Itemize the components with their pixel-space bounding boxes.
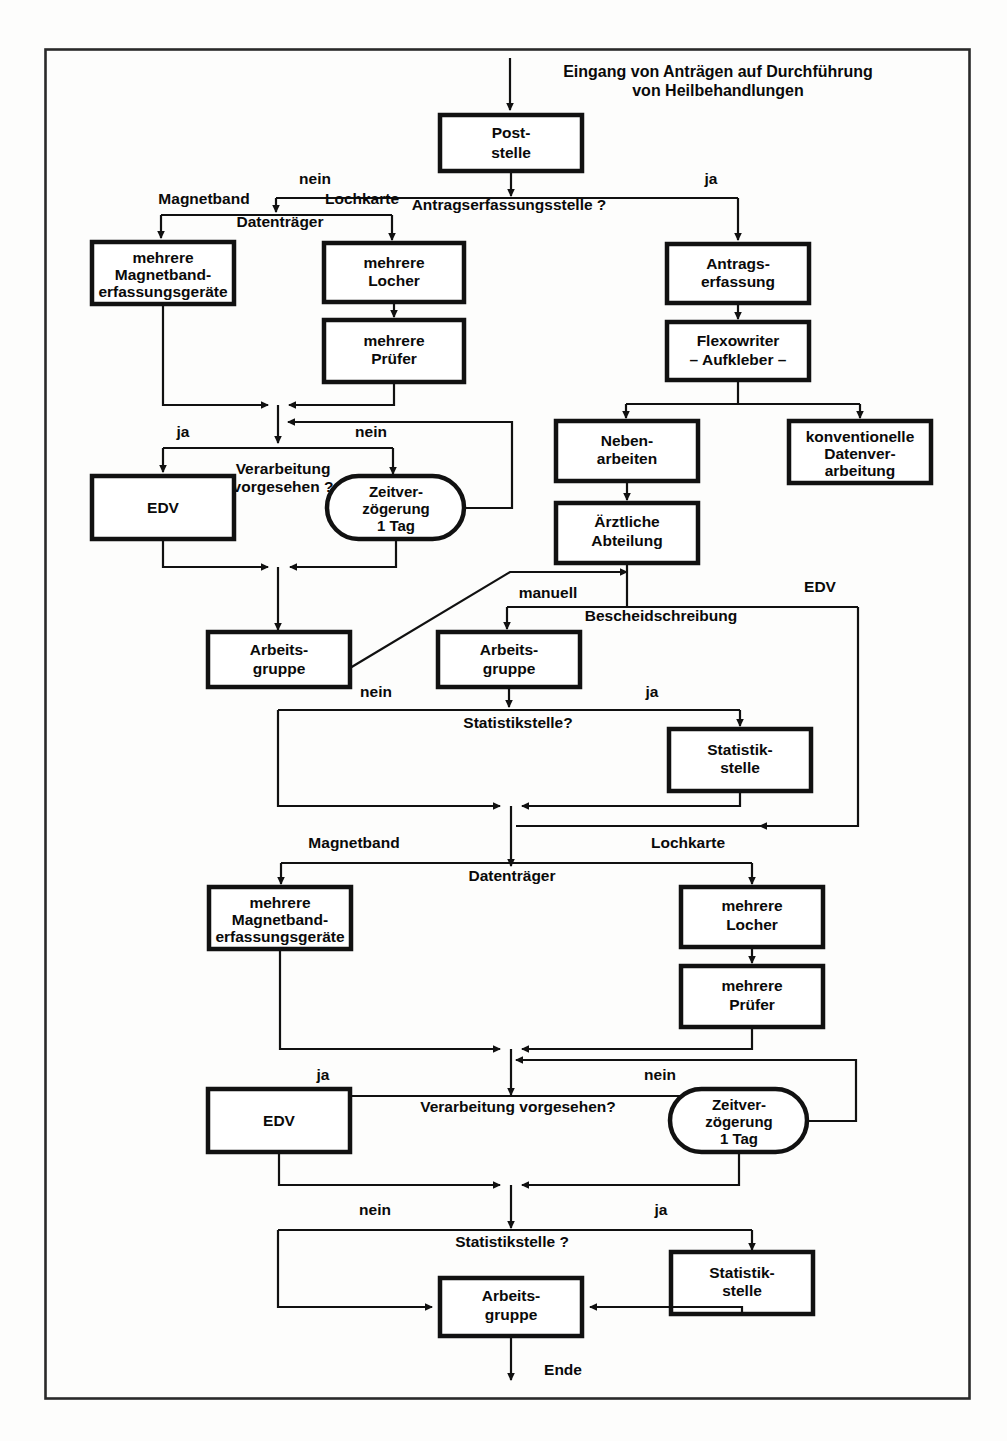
decision-verarbeitung-1a: Verarbeitung <box>236 460 331 477</box>
locher1-line-2: Locher <box>368 272 420 289</box>
ag1-line-1: Arbeits- <box>250 641 309 658</box>
st1-line-2: stelle <box>720 759 760 776</box>
ag2-line-2: gruppe <box>483 660 536 677</box>
label-ja-stat-2: ja <box>654 1201 668 1218</box>
antragserf-line-1: Antrags- <box>706 255 770 272</box>
pruefer1-line-2: Prüfer <box>371 350 417 367</box>
kdv-line-3: arbeitung <box>825 462 896 479</box>
label-ja-verarb-1: ja <box>176 423 190 440</box>
zv2-line-2: zögerung <box>705 1113 773 1130</box>
zv1-line-1: Zeitver- <box>369 483 423 500</box>
edge-nein-stat2-ag3 <box>278 1230 432 1307</box>
pruefer1-line-1: mehrere <box>363 332 425 349</box>
label-nein-verarb-1: nein <box>355 423 387 440</box>
decision-verarbeitung-2: Verarbeitung vorgesehen? <box>420 1098 616 1115</box>
decision-datentraeger-2: Datenträger <box>469 867 556 884</box>
st2-line-1: Statistik- <box>709 1264 774 1281</box>
label-edv-branch: EDV <box>804 578 837 595</box>
kdv-line-2: Datenver- <box>824 445 896 462</box>
neben-line-2: arbeiten <box>597 450 657 467</box>
label-lochkarte-2: Lochkarte <box>651 834 725 851</box>
edv2-line-1: EDV <box>263 1112 296 1129</box>
edge-edv1-merge <box>163 539 268 567</box>
mbg1-line-1: mehrere <box>132 249 194 266</box>
neben-line-1: Neben- <box>601 432 654 449</box>
kdv-line-1: konventionelle <box>806 428 915 445</box>
decision-bescheidschreibung: Bescheidschreibung <box>585 607 737 624</box>
label-nein-stat-1: nein <box>360 683 392 700</box>
edge-pruefer1-merge <box>289 382 394 405</box>
aerzt-line-1: Ärztliche <box>594 513 660 530</box>
ag3-line-1: Arbeits- <box>482 1287 541 1304</box>
label-nein-top: nein <box>299 170 331 187</box>
edge-zv2-merge <box>522 1152 739 1185</box>
flexo-line-1: Flexowriter <box>697 332 780 349</box>
zv1-line-2: zögerung <box>362 500 430 517</box>
zv1-line-3: 1 Tag <box>377 517 415 534</box>
label-lochkarte-1: Lochkarte <box>325 190 399 207</box>
label-magnetband-1: Magnetband <box>158 190 249 207</box>
mbg1-line-3: erfassungsgeräte <box>98 283 228 300</box>
mbg2-line-2: Magnetband- <box>232 911 328 928</box>
mbg2-line-1: mehrere <box>249 894 311 911</box>
poststelle-line-1: Post- <box>492 124 531 141</box>
aerzt-line-2: Abteilung <box>591 532 662 549</box>
locher2-line-1: mehrere <box>721 897 783 914</box>
edge-zv1-merge <box>290 539 396 567</box>
label-nein-verarb-2: nein <box>644 1066 676 1083</box>
poststelle-line-2: stelle <box>491 144 531 161</box>
edge-pruefer2-merge <box>522 1027 752 1049</box>
pruefer2-line-1: mehrere <box>721 977 783 994</box>
pruefer2-line-2: Prüfer <box>729 996 775 1013</box>
mbg1-line-2: Magnetband- <box>115 266 211 283</box>
title-line-2: von Heilbehandlungen <box>632 82 804 99</box>
decision-verarbeitung-1b: vorgesehen ? <box>233 478 334 495</box>
ag1-line-2: gruppe <box>253 660 306 677</box>
st2-line-2: stelle <box>722 1282 762 1299</box>
mbg2-line-3: erfassungsgeräte <box>215 928 345 945</box>
label-ende: Ende <box>544 1361 582 1378</box>
ag2-line-1: Arbeits- <box>480 641 539 658</box>
locher2-line-2: Locher <box>726 916 778 933</box>
flexo-line-2: – Aufkleber – <box>690 351 787 368</box>
decision-statistikstelle-2: Statistikstelle ? <box>455 1233 569 1250</box>
decision-statistikstelle-1: Statistikstelle? <box>463 714 572 731</box>
edge-edv2-merge <box>279 1152 500 1185</box>
zv2-line-3: 1 Tag <box>720 1130 758 1147</box>
edv1-line-1: EDV <box>147 499 180 516</box>
title-line-1: Eingang von Anträgen auf Durchführung <box>563 63 873 80</box>
zv2-line-1: Zeitver- <box>712 1096 766 1113</box>
label-ja-verarb-2: ja <box>316 1066 330 1083</box>
label-magnetband-2: Magnetband <box>308 834 399 851</box>
label-nein-stat-2: nein <box>359 1201 391 1218</box>
label-manuell: manuell <box>519 584 578 601</box>
label-ja-stat-1: ja <box>645 683 659 700</box>
label-ja-top: ja <box>704 170 718 187</box>
edge-mbg1-merge <box>163 304 268 405</box>
antragserf-line-2: erfassung <box>701 273 775 290</box>
locher1-line-1: mehrere <box>363 254 425 271</box>
flowchart-svg: Eingang von Anträgen auf Durchführung vo… <box>0 0 1007 1441</box>
st1-line-1: Statistik- <box>707 741 772 758</box>
edge-mbg2-merge <box>280 949 500 1049</box>
flowchart-page: Eingang von Anträgen auf Durchführung vo… <box>0 0 1007 1441</box>
ag3-line-2: gruppe <box>485 1306 538 1323</box>
